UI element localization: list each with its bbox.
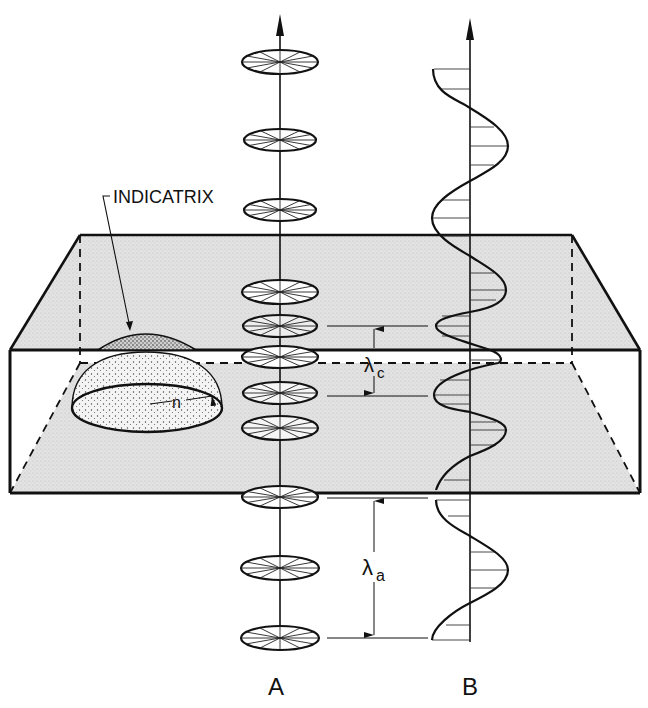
indicatrix-base (72, 384, 222, 432)
disc-2 (244, 129, 316, 151)
disc-11 (241, 626, 319, 650)
column-b-arrow-icon (466, 18, 474, 40)
indicatrix-radius-label: n (172, 394, 181, 411)
lambda-a-dimension: λ a (327, 498, 428, 638)
disc-7 (243, 382, 317, 404)
column-a-arrow-icon (276, 14, 284, 36)
lambda-c-symbol: λ (364, 354, 374, 376)
indicatrix-label: INDICATRIX (113, 187, 214, 207)
disc-4 (242, 280, 318, 304)
lambda-c-subscript: c (377, 364, 385, 381)
lambda-a-symbol: λ (362, 555, 373, 580)
lambda-a-subscript: a (376, 567, 385, 584)
column-b-label: B (462, 673, 478, 700)
slab-top-face (10, 235, 640, 350)
column-a-label: A (268, 673, 284, 700)
birefringence-diagram: n INDICATRIX (0, 0, 648, 708)
disc-5 (243, 315, 317, 337)
disc-6 (242, 346, 318, 368)
disc-9 (242, 486, 318, 508)
disc-1 (242, 50, 318, 74)
disc-10 (241, 556, 319, 580)
disc-3 (244, 199, 316, 221)
disc-8 (242, 416, 318, 440)
